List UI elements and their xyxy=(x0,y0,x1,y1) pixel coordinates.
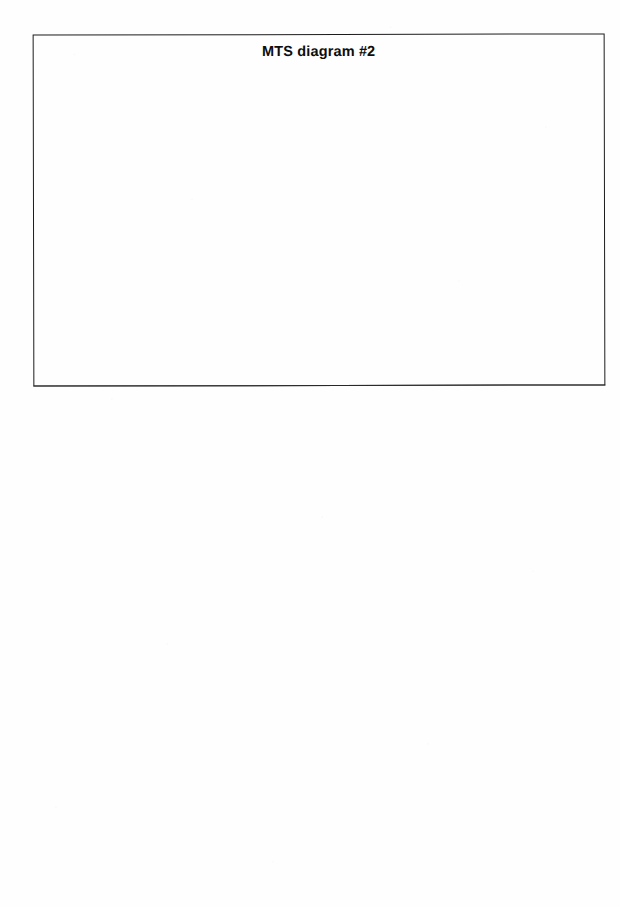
diagram-title: MTS diagram #2 xyxy=(34,41,604,60)
diagram-canvas xyxy=(34,62,605,385)
diagram-frame: MTS diagram #2 xyxy=(33,33,606,386)
page-body-blank-area xyxy=(0,387,620,907)
scanned-page: MTS diagram #2 xyxy=(0,0,620,907)
